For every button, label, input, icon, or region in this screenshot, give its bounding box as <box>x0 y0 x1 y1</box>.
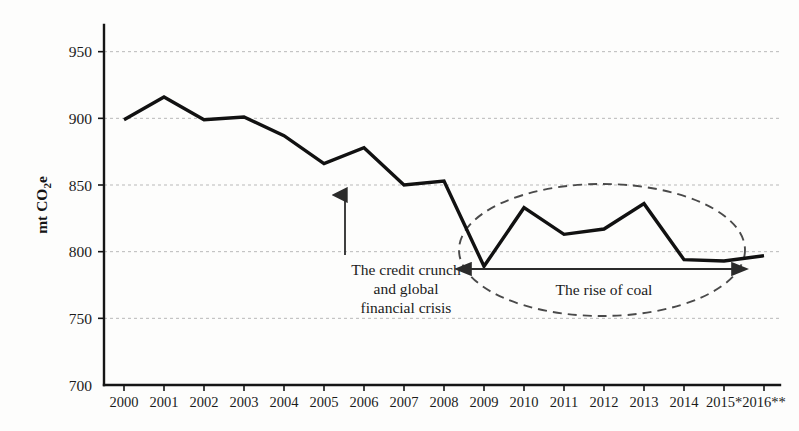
x-tick-label: 2011 <box>550 394 578 410</box>
x-tick-label: 2004 <box>270 394 300 410</box>
x-tick-label: 2014 <box>670 394 700 410</box>
x-tick-label: 2007 <box>390 394 419 410</box>
chart-figure: 700750800850900950 200020012002200320042… <box>0 0 799 431</box>
y-axis-title-tail: e <box>33 176 50 183</box>
y-tick-label: 800 <box>69 243 93 260</box>
x-tick-label: 2005 <box>310 394 339 410</box>
x-tick-label: 2016** <box>742 394 786 410</box>
x-tick-label: 2001 <box>150 394 179 410</box>
x-tick-label: 2010 <box>510 394 539 410</box>
x-tick-label: 2009 <box>470 394 499 410</box>
x-tick-label: 2015* <box>706 394 742 410</box>
credit-crunch-line-3: financial crisis <box>361 299 452 316</box>
x-tick-label: 2003 <box>230 394 259 410</box>
x-tick-label: 2006 <box>350 394 379 410</box>
y-tick-label: 900 <box>69 110 93 127</box>
y-tick-label: 850 <box>69 177 93 194</box>
credit-crunch-line-1: The credit crunch <box>351 261 461 278</box>
line-chart-canvas: 700750800850900950 200020012002200320042… <box>0 0 799 431</box>
rise-of-coal-label: The rise of coal <box>556 281 653 298</box>
chart-background <box>0 0 799 431</box>
x-tick-label: 2002 <box>190 394 219 410</box>
x-tick-label: 2000 <box>110 394 139 410</box>
x-tick-label: 2008 <box>430 394 459 410</box>
y-axis-title-main: mt CO <box>33 189 50 234</box>
x-tick-label: 2013 <box>630 394 659 410</box>
credit-crunch-line-2: and global <box>374 280 439 297</box>
y-tick-label: 700 <box>69 377 93 394</box>
x-tick-label: 2012 <box>590 394 619 410</box>
y-tick-label: 950 <box>69 43 93 60</box>
y-tick-label: 750 <box>69 310 93 327</box>
x-axis-labels-group: 2000200120022003200420052006200720082009… <box>110 394 786 410</box>
